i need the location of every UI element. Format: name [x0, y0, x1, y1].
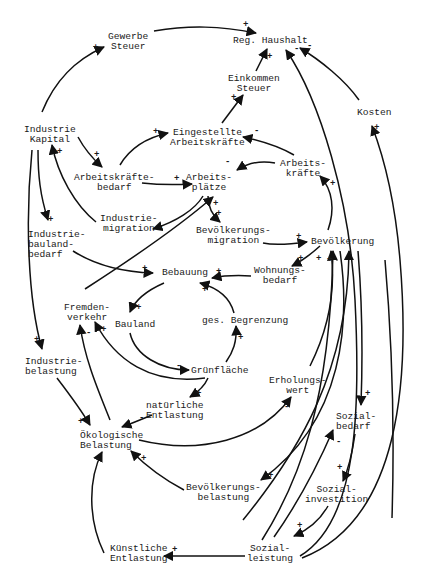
link-einkommensteuer-haushalt [256, 49, 267, 71]
sign-plus: + [174, 175, 179, 184]
node-oekologische-belastung: Ökologische Belastung [80, 431, 143, 451]
link-sozialleistung-haushalt [286, 50, 357, 556]
sign-plus: + [142, 265, 147, 274]
node-sozialinvestition: Sozial- investition [305, 485, 368, 505]
node-gruenflaeche: Grünfläche [191, 366, 249, 376]
sign-plus: + [57, 148, 62, 157]
sign-plus: + [374, 124, 379, 133]
node-industrie-kapital: Industrie Kapital [24, 125, 76, 145]
node-industriemigration: Industrie- migration [100, 214, 158, 234]
sign-plus: + [231, 94, 236, 103]
node-fremdenverkehr: Fremden- verkehr [64, 303, 110, 323]
node-industriebaulandbedarf: Industrie- bauland- bedarf [28, 230, 86, 260]
node-kosten: Kosten [357, 108, 392, 118]
sign-plus: + [94, 151, 99, 160]
sign-plus: + [216, 210, 221, 219]
sign-minus: - [158, 224, 163, 233]
sign-minus: - [176, 362, 181, 371]
node-arbeitskraefte: Arbeits- kräfte [280, 159, 326, 179]
link-industriebelastung-oekobelastung [57, 378, 90, 425]
node-bauland: Bauland [115, 320, 155, 330]
sign-plus: + [327, 256, 332, 265]
link-bevoelkerung-sozialbedarf [358, 251, 362, 405]
sign-minus: - [86, 329, 91, 338]
node-eingestellte-arbeitskraefte: Eingestellte Arbeitskräfte [170, 128, 245, 148]
sign-plus: + [34, 336, 39, 345]
link-gruenflaeche-begrenzung [226, 326, 236, 362]
node-kuenstliche-entlastung: Künstliche Entlastung [110, 544, 168, 564]
link-arbeitskraefte-arbeitsplaetze [237, 162, 275, 170]
node-wohnungsbedarf: Wohnungs- bedarf [254, 266, 306, 286]
sign-plus: + [238, 334, 243, 343]
sign-minus: - [294, 45, 299, 54]
sign-plus: + [316, 255, 321, 264]
sign-plus: + [267, 53, 272, 62]
link-kuenstentlastung-oekobelastung [92, 452, 104, 553]
node-industriebelastung: Industrie- belastung [25, 357, 83, 377]
node-arbeitskraeftebedarf: Arbeitskräfte- bedarf [74, 173, 155, 193]
link-akbedarf-eingestellte [120, 133, 168, 165]
sign-plus: + [298, 255, 303, 264]
node-bevoelkerungsbelastung: Bevölkerungs- belastung [186, 483, 261, 503]
sign-plus: + [153, 128, 158, 137]
node-sozialleistung: Sozial- leistung [247, 544, 293, 564]
sign-plus: + [48, 216, 53, 225]
sign-plus: + [141, 455, 146, 464]
node-erholungswert: Erholungs- wert [269, 376, 327, 396]
link-sozialbedarf-sozialinvestition [343, 434, 355, 481]
sign-plus: + [297, 522, 302, 531]
sign-minus: - [254, 127, 259, 136]
sign-minus: - [225, 158, 230, 167]
link-kapital-gewerbesteuer [42, 47, 104, 112]
sign-plus: + [78, 418, 83, 427]
node-gewerbe-steuer: Gewerbe Steuer [108, 32, 148, 52]
link-erholungswert-bevoelkerung [310, 251, 332, 366]
sign-plus: + [330, 180, 335, 189]
sign-plus: + [365, 390, 370, 399]
sign-plus: + [268, 472, 273, 481]
link-bevbelastung-oekobelastung [131, 451, 184, 490]
sign-plus: + [172, 546, 177, 555]
sign-plus: + [196, 390, 201, 399]
node-bevoelkerung: Bevölkerung [311, 237, 374, 247]
link-gewerbesteuer-haushalt [154, 27, 256, 33]
sign-plus: + [93, 44, 98, 53]
node-natuerliche-entlastung: natürliche Entlastung [146, 401, 204, 421]
node-einkommen-steuer: Einkommen Steuer [228, 74, 280, 94]
link-sozialleistung-bevoelkerung-a [385, 260, 393, 518]
sign-plus: + [136, 304, 141, 313]
sign-minus: - [95, 455, 100, 464]
sign-plus: + [243, 21, 248, 30]
node-arbeitsplaetze: Arbeits- plätze [186, 173, 232, 193]
node-bebauung: Bebauung [162, 268, 208, 278]
sign-plus: + [202, 286, 207, 295]
sign-plus: + [101, 326, 106, 335]
sign-minus: - [284, 403, 289, 412]
node-ges-begrenzung: ges. Begrenzung [202, 316, 288, 326]
node-sozialbedarf: Sozial- bedarf [336, 412, 376, 432]
sign-plus: + [296, 233, 301, 242]
link-arbeitskraefte-eingestellte [243, 137, 294, 155]
link-kapital-baulandbedarf [38, 150, 48, 220]
node-bevoelkerungsmigration: Bevölkerungs- migration [196, 226, 271, 246]
sign-minus: - [336, 438, 341, 447]
sign-plus: + [337, 464, 342, 473]
sign-minus: - [139, 414, 144, 423]
sign-minus: - [307, 42, 312, 51]
sign-plus: + [216, 268, 221, 277]
sign-plus: + [213, 200, 218, 209]
